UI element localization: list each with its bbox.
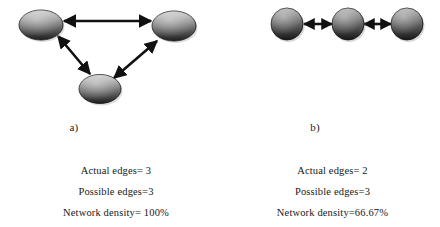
graph-a bbox=[0, 0, 225, 120]
panel-b-stats: Actual edges= 2 Possible edges=3 Network… bbox=[225, 160, 440, 223]
node-right bbox=[391, 8, 425, 42]
panel-a: a) Actual edges= 3 Possible edges=3 Netw… bbox=[0, 0, 225, 227]
stat-actual-edges: Actual edges= 3 bbox=[0, 160, 232, 181]
panel-a-stats: Actual edges= 3 Possible edges=3 Network… bbox=[0, 160, 232, 223]
panel-b-caption: b) bbox=[225, 121, 405, 133]
node-top-left bbox=[19, 10, 65, 42]
panel-a-caption: a) bbox=[0, 121, 148, 133]
stat-network-density: Network density= 100% bbox=[0, 202, 232, 223]
graph-b bbox=[225, 0, 440, 120]
node-left bbox=[271, 8, 305, 42]
node-middle bbox=[332, 8, 366, 42]
stat-actual-edges: Actual edges= 2 bbox=[225, 160, 440, 181]
node-top-right bbox=[152, 11, 198, 43]
edge-bottom-topright bbox=[114, 41, 157, 78]
stat-possible-edges: Possible edges=3 bbox=[225, 181, 440, 202]
stat-possible-edges: Possible edges=3 bbox=[0, 181, 232, 202]
node-bottom bbox=[79, 75, 123, 106]
network-density-figure: a) Actual edges= 3 Possible edges=3 Netw… bbox=[0, 0, 440, 227]
panel-b: b) Actual edges= 2 Possible edges=3 Netw… bbox=[225, 0, 440, 227]
edge-topleft-bottom bbox=[58, 36, 90, 74]
stat-network-density: Network density=66.67% bbox=[225, 202, 440, 223]
